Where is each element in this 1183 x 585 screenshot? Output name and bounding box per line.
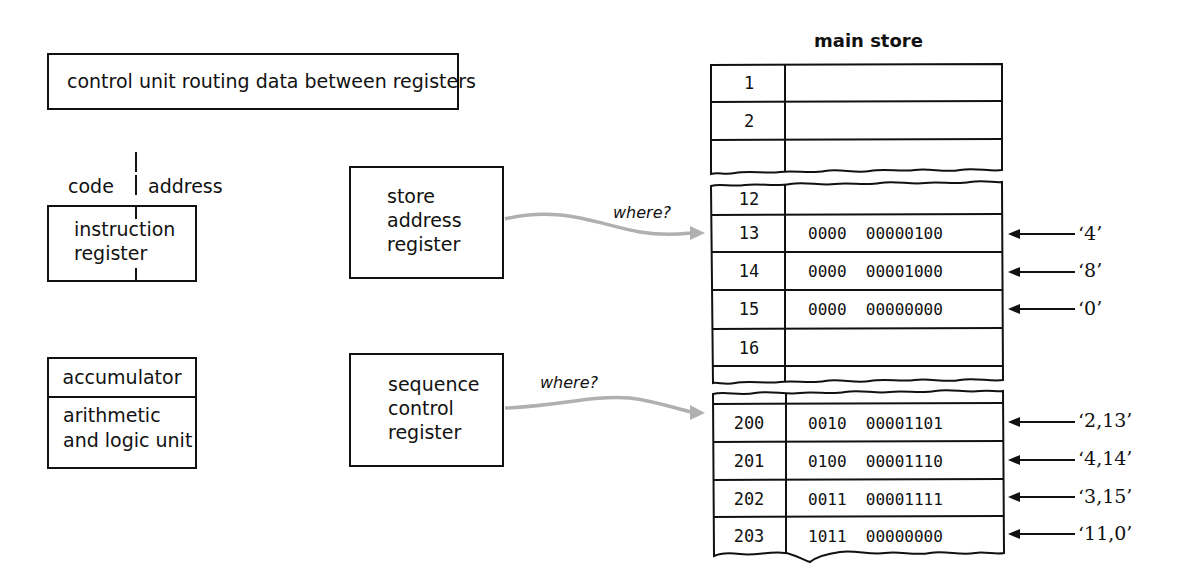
address-cell: 203 bbox=[713, 526, 785, 546]
decimal-annotation: ‘4’ bbox=[1078, 222, 1102, 244]
decimal-annotation: ‘11,0’ bbox=[1078, 522, 1132, 544]
address-cell: 200 bbox=[713, 413, 785, 433]
address-cell: 16 bbox=[713, 338, 785, 358]
arrow-head-icon bbox=[1008, 229, 1020, 239]
memory-word: 0010 00001101 bbox=[808, 414, 943, 433]
where-arrow-sequence-control bbox=[505, 397, 692, 412]
diagram-lines bbox=[0, 0, 1183, 585]
arrow-head-icon bbox=[1008, 304, 1020, 314]
memory-word: 1011 00000000 bbox=[808, 527, 943, 546]
decimal-annotation: ‘2,13’ bbox=[1078, 409, 1132, 431]
arrow-head-icon bbox=[1008, 267, 1020, 277]
arrow-head-icon bbox=[1008, 529, 1020, 539]
arrow-head-icon bbox=[1008, 492, 1020, 502]
memory-word: 0100 00001110 bbox=[808, 452, 943, 471]
memory-word: 0011 00001111 bbox=[808, 490, 943, 509]
address-cell: 202 bbox=[713, 489, 785, 509]
memory-word: 0000 00000000 bbox=[808, 300, 943, 319]
arrow-head-icon bbox=[1008, 455, 1020, 465]
decimal-annotation: ‘0’ bbox=[1078, 297, 1102, 319]
memory-word: 0000 00001000 bbox=[808, 262, 943, 281]
address-cell: 201 bbox=[713, 451, 785, 471]
decimal-annotation: ‘4,14’ bbox=[1078, 447, 1132, 469]
main-store-title: main store bbox=[814, 30, 923, 51]
arrow-head-icon bbox=[1008, 417, 1020, 427]
where-arrow-store-address bbox=[505, 214, 692, 234]
address-cell: 13 bbox=[713, 223, 785, 243]
arrow-head-icon bbox=[690, 405, 705, 420]
address-cell: 15 bbox=[713, 299, 785, 319]
address-cell: 12 bbox=[713, 189, 785, 209]
address-cell: 2 bbox=[713, 111, 785, 131]
address-cell: 14 bbox=[713, 261, 785, 281]
decimal-annotation: ‘3,15’ bbox=[1078, 485, 1132, 507]
arrow-head-icon bbox=[690, 226, 705, 240]
address-cell: 1 bbox=[713, 73, 785, 93]
memory-word: 0000 00000100 bbox=[808, 224, 943, 243]
decimal-annotation: ‘8’ bbox=[1078, 259, 1102, 281]
